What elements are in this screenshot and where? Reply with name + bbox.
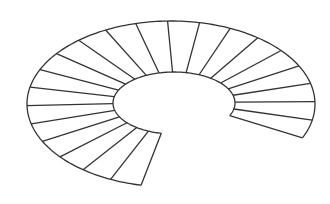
stair-tread-line: [40, 70, 119, 91]
stair-tread-line: [30, 87, 114, 97]
diagram-canvas: [0, 0, 330, 204]
stair-tread-line: [168, 21, 173, 72]
stair-tread-line: [79, 40, 135, 79]
stair-tread-line: [233, 83, 310, 95]
stair-tread-line: [230, 116, 303, 138]
stair-tread-line: [211, 38, 258, 78]
stair-tread-line: [186, 23, 199, 73]
stair-tread-line: [234, 109, 312, 120]
stair-tread-line: [111, 131, 149, 179]
stair-tread-line: [221, 51, 281, 83]
stair-tread-line: [60, 123, 127, 157]
inner-edge: [113, 72, 235, 133]
stair-tread-line: [199, 28, 230, 74]
stair-tread-line: [228, 66, 299, 89]
stair-tread-line: [57, 54, 126, 85]
stair-tread-line: [136, 24, 159, 73]
stair-tread-line: [106, 30, 147, 75]
stair-steps: [27, 21, 315, 185]
stair-tread-line: [83, 128, 137, 170]
stair-tread-line: [141, 133, 161, 185]
outer-edge: [27, 21, 315, 185]
spiral-staircase-drawing: [0, 0, 330, 204]
stair-tread-line: [27, 104, 113, 106]
